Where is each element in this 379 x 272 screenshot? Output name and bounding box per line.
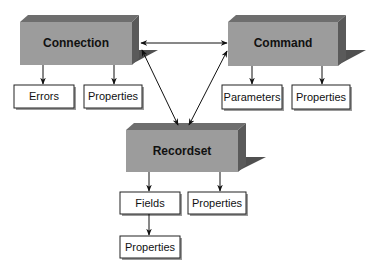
recordset-top-face [126, 123, 246, 130]
recordset-fields-label: Fields [135, 197, 165, 209]
arrow-connection-recordset [142, 50, 178, 125]
connection-errors-label: Errors [29, 90, 59, 102]
recordset-properties-box: Properties [188, 192, 248, 216]
recordset-properties-label: Properties [192, 197, 243, 209]
command-properties-box: Properties [292, 85, 352, 111]
connection-errors-box: Errors [14, 85, 76, 110]
command-parameters-box: Parameters [222, 85, 284, 111]
ado-object-model-diagram: Connection Command Recordset Errors Prop… [0, 0, 379, 272]
command-label: Command [254, 36, 313, 50]
recordset-fields-box: Fields [120, 192, 182, 216]
connection-properties-label: Properties [88, 90, 139, 102]
recordset-node: Recordset [126, 123, 266, 172]
connection-label: Connection [43, 36, 109, 50]
command-properties-label: Properties [296, 91, 347, 103]
connection-side-face [132, 15, 139, 65]
command-side-face [338, 15, 346, 66]
command-node: Command [228, 15, 366, 66]
fields-properties-label: Properties [125, 241, 176, 253]
recordset-side-face [238, 123, 246, 172]
command-top-face [228, 15, 346, 22]
fields-properties-box: Properties [120, 236, 182, 260]
connection-properties-box: Properties [84, 85, 144, 110]
command-parameters-label: Parameters [224, 91, 281, 103]
connection-top-face [20, 15, 139, 22]
arrow-command-recordset [189, 51, 227, 125]
recordset-label: Recordset [153, 144, 212, 158]
connection-node: Connection [20, 15, 158, 65]
